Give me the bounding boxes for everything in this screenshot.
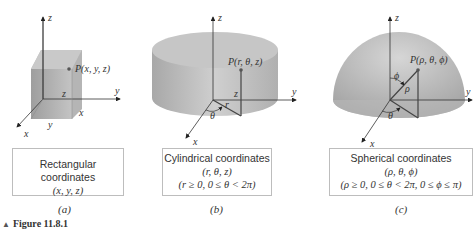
axis-label-z: z [218, 12, 222, 23]
axis-label-y: y [466, 86, 470, 97]
cylinder-diagram [152, 17, 296, 138]
panel-tuple: (ρ, θ, ϕ) [330, 165, 472, 178]
hemisphere-diagram [333, 17, 472, 142]
edge-label-rho: ρ [405, 83, 410, 94]
coordinate-systems-diagram [0, 0, 476, 233]
edge-label-theta: θ [388, 110, 393, 121]
cylindrical-description-box: Cylindrical coordinates (r, θ, z) (r ≥ 0… [162, 148, 272, 196]
axis-label-y: y [292, 86, 296, 97]
rectangular-description-box: Rectangular coordinates (x, y, z) [12, 148, 124, 196]
spherical-description-box: Spherical coordinates (ρ, θ, ϕ) (ρ ≥ 0, … [329, 148, 473, 196]
panel-title: Rectangular coordinates [13, 158, 123, 184]
triangle-marker-icon: ▲ [2, 220, 10, 229]
panel-sublabel-a: (a) [58, 203, 71, 215]
panel-sublabel-c: (c) [395, 203, 407, 215]
panel-title: Spherical coordinates [330, 152, 472, 165]
panel-constraints: (ρ ≥ 0, 0 ≤ θ < 2π, 0 ≤ ϕ ≤ π) [330, 178, 472, 191]
figure-11-8-1: z P(x, y, z) y z x y x z P(r, θ, z) y z … [0, 0, 476, 233]
caption-text: Figure 11.8.1 [13, 218, 68, 229]
axis-label-x: x [24, 128, 28, 139]
axis-label-y: y [115, 85, 119, 96]
axis-label-z: z [395, 12, 399, 23]
point-label: P(ρ, θ, ϕ) [410, 54, 448, 65]
axis-label-z: z [48, 12, 52, 23]
edge-label-x: x [79, 107, 83, 118]
edge-label-phi: ϕ [394, 70, 399, 81]
panel-constraints: (r ≥ 0, 0 ≤ θ < 2π) [163, 178, 271, 191]
point-label: P(x, y, z) [75, 63, 110, 74]
figure-caption: ▲Figure 11.8.1 [2, 218, 68, 229]
edge-label-z: z [62, 88, 66, 99]
panel-sublabel-b: (b) [210, 203, 223, 215]
point-label: P(r, θ, z) [228, 56, 262, 67]
panel-title: Cylindrical coordinates [163, 152, 271, 165]
axis-label-x: x [193, 136, 197, 147]
edge-label-theta: θ [210, 110, 215, 121]
edge-label-z: z [234, 88, 238, 99]
panel-tuple: (x, y, z) [13, 184, 123, 197]
panel-tuple: (r, θ, z) [163, 165, 271, 178]
edge-label-y: y [48, 119, 52, 130]
edge-label-r: r [225, 99, 229, 110]
